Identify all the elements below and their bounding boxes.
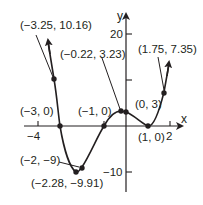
y-axis-label: y xyxy=(117,9,123,23)
right-end-arrow xyxy=(167,62,169,76)
point-neg0.22-3.23 xyxy=(118,108,123,113)
label-1-0: (1, 0) xyxy=(138,131,165,143)
label-neg2-neg9: (−2, −9) xyxy=(20,154,60,166)
point-neg2-neg9 xyxy=(79,165,84,170)
label-neg0.22-3.23: (−0.22, 3.23) xyxy=(60,48,126,60)
x-axis-label: x xyxy=(181,112,187,126)
label-neg2.28-neg9.91: (−2.28, −9.91) xyxy=(31,177,103,189)
y-tick-label-neg10: −10 xyxy=(103,166,123,178)
point-neg3.25-10.16 xyxy=(51,76,56,81)
left-end-arrow xyxy=(48,40,50,54)
point-0-3 xyxy=(123,109,128,114)
label-1.75-7.35: (1.75, 7.35) xyxy=(138,43,197,55)
function-graph: −4 2 x 20 −10 y (−3.25, 10.16) xyxy=(0,0,203,205)
point-neg3-0 xyxy=(57,123,62,128)
label-0-3: (0, 3) xyxy=(135,98,162,110)
point-neg1-0 xyxy=(101,123,106,128)
y-tick-label-20: 20 xyxy=(110,28,123,40)
x-tick-label-neg4: −4 xyxy=(27,130,41,142)
point-1-0 xyxy=(145,123,150,128)
label-neg1-0: (−1, 0) xyxy=(78,105,112,117)
label-neg3.25-10.16: (−3.25, 10.16) xyxy=(20,19,92,31)
point-neg2.28-neg9.91 xyxy=(73,169,78,174)
point-1.75-7.35 xyxy=(161,90,166,95)
point-labels: (−3.25, 10.16) (−0.22, 3.23) (1.75, 7.35… xyxy=(20,19,197,189)
label-neg3-0: (−3, 0) xyxy=(20,105,54,117)
x-tick-label-2: 2 xyxy=(166,130,172,142)
